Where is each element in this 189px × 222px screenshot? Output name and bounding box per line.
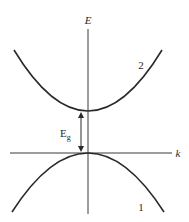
band-gap-arrow	[78, 112, 84, 152]
band-1-label: 1	[138, 201, 144, 213]
band-gap-label: Eg	[60, 127, 71, 142]
band-2-label: 2	[138, 59, 144, 71]
wavevector-axis-label: k	[176, 147, 182, 159]
band-diagram: E k 2 1 Eg	[0, 0, 189, 222]
energy-axis-label: E	[84, 14, 92, 26]
band-gap-label-sub: g	[67, 133, 71, 142]
